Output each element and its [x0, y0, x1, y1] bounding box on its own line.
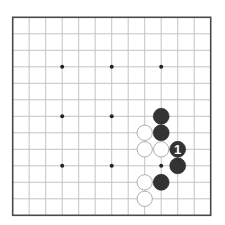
star-point — [110, 114, 114, 118]
black-stone — [153, 125, 169, 141]
star-point — [60, 114, 64, 118]
white-stone — [137, 125, 152, 140]
star-point — [60, 65, 64, 69]
black-stone — [170, 158, 186, 174]
black-stone — [153, 108, 169, 124]
star-point — [60, 164, 64, 168]
white-stone — [137, 142, 152, 157]
white-stone — [137, 175, 152, 190]
star-point — [110, 65, 114, 69]
star-point — [159, 164, 163, 168]
black-stone — [153, 174, 169, 190]
white-stone — [154, 142, 169, 157]
move-number-label: 1 — [174, 142, 181, 157]
black-stone: 1 — [170, 141, 186, 157]
go-board: 1 — [0, 0, 225, 225]
star-point — [159, 65, 163, 69]
star-point — [110, 164, 114, 168]
white-stone — [137, 191, 152, 206]
